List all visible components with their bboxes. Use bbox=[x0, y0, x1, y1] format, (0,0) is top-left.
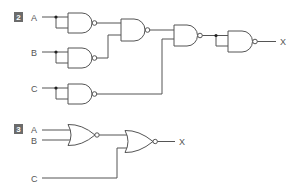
nand-gate-a-inverter bbox=[42, 13, 97, 33]
diagram-2: 2 A B C bbox=[14, 12, 286, 104]
nor-gate-ab bbox=[42, 124, 99, 145]
junction-dot-c bbox=[54, 86, 57, 89]
output-label-x: X bbox=[280, 37, 286, 47]
diagram-3: 3 A B C X bbox=[14, 124, 185, 184]
input-label-c: C bbox=[31, 174, 38, 184]
junction-dot-b bbox=[54, 50, 57, 53]
input-label-b: B bbox=[31, 48, 37, 58]
junction-dot-a bbox=[54, 15, 57, 18]
nand-gate-output-inverter bbox=[202, 31, 276, 52]
nand-gate-ab bbox=[121, 19, 150, 41]
nand-gate-b-inverter bbox=[42, 48, 97, 68]
output-label-x: X bbox=[179, 137, 185, 147]
logic-circuit-diagrams: 2 A B C bbox=[0, 0, 301, 189]
diagram-2-number: 2 bbox=[16, 13, 21, 22]
junction-dot-output bbox=[214, 34, 217, 37]
nor-gate-output bbox=[125, 130, 175, 152]
nand-gate-abc bbox=[174, 25, 202, 46]
diagram-3-number: 3 bbox=[16, 125, 21, 134]
diagram-2-badge: 2 bbox=[14, 12, 23, 22]
input-label-a: A bbox=[31, 125, 37, 135]
input-label-a: A bbox=[31, 13, 37, 23]
nand-gate-c-inverter bbox=[42, 84, 97, 104]
input-label-b: B bbox=[31, 136, 37, 146]
input-label-c: C bbox=[31, 84, 38, 94]
diagram-3-badge: 3 bbox=[14, 124, 23, 134]
